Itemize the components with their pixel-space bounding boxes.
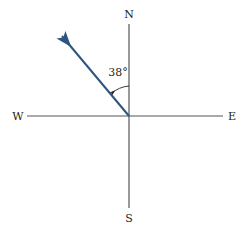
- label-south: S: [125, 212, 133, 225]
- label-west: W: [12, 110, 24, 123]
- angle-arc: [112, 86, 130, 94]
- angle-label: 38°: [108, 66, 128, 79]
- label-north: N: [124, 8, 134, 21]
- compass-bearing-diagram: N S W E 38°: [0, 0, 246, 233]
- compass-diagram-canvas: N S W E 38°: [0, 0, 246, 233]
- label-east: E: [228, 110, 236, 123]
